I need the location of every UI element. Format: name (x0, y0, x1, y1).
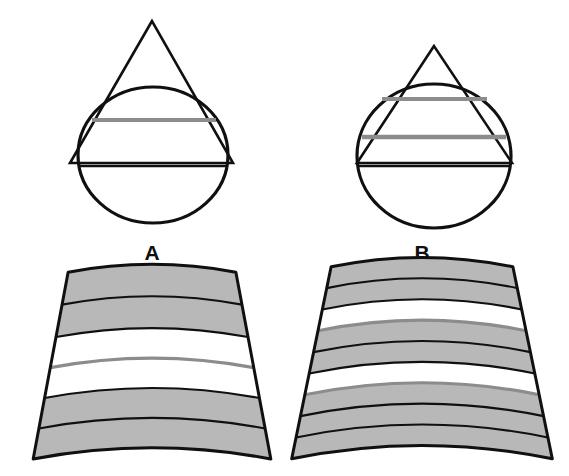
panel-b-sector-fan (292, 258, 553, 459)
figure-canvas: A B (0, 0, 569, 476)
panel-a-sector-fan (33, 264, 271, 459)
panel-a-label: A (144, 241, 159, 264)
